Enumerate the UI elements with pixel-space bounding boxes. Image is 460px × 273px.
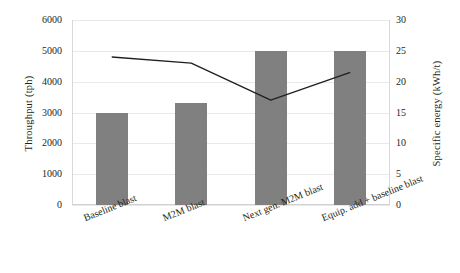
y-axis-left-tick-label: 3000 — [22, 108, 62, 118]
line-series — [72, 20, 390, 205]
y-axis-left-tick-label: 0 — [22, 200, 62, 210]
plot-area — [72, 20, 390, 205]
y-axis-left-tick-label: 6000 — [22, 15, 62, 25]
y-axis-right-tick-label: 20 — [396, 77, 436, 87]
y-axis-left-tick-label: 5000 — [22, 46, 62, 56]
y-axis-right-tick-label: 25 — [396, 46, 436, 56]
y-axis-right-tick-label: 30 — [396, 15, 436, 25]
y-axis-left-tick-label: 1000 — [22, 169, 62, 179]
line-path — [112, 57, 351, 100]
y-axis-right-tick-label: 15 — [396, 108, 436, 118]
y-axis-left-tick-label: 2000 — [22, 138, 62, 148]
chart-figure: Throughput (tph) Specific energy (kWh/t)… — [0, 0, 460, 273]
y-axis-right-tick-label: 0 — [396, 200, 436, 210]
y-axis-left-tick-label: 4000 — [22, 77, 62, 87]
y-axis-right-tick-label: 10 — [396, 138, 436, 148]
